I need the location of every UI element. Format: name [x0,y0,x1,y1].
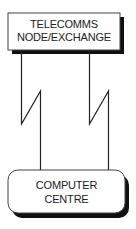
bottom-node-label-line-2: CENTRE [8,192,125,206]
bottom-node-label-line-1: COMPUTER [8,178,125,192]
right-link-line [90,50,109,171]
network-diagram: TELECOMMS NODE/EXCHANGE COMPUTER CENTRE [0,0,136,229]
bottom-node-label: COMPUTER CENTRE [8,178,125,206]
top-node-label-line-1: TELECOMMS [8,18,120,31]
top-node-label-line-2: NODE/EXCHANGE [8,31,120,44]
top-node-label: TELECOMMS NODE/EXCHANGE [8,18,120,44]
left-link-line [22,50,41,171]
